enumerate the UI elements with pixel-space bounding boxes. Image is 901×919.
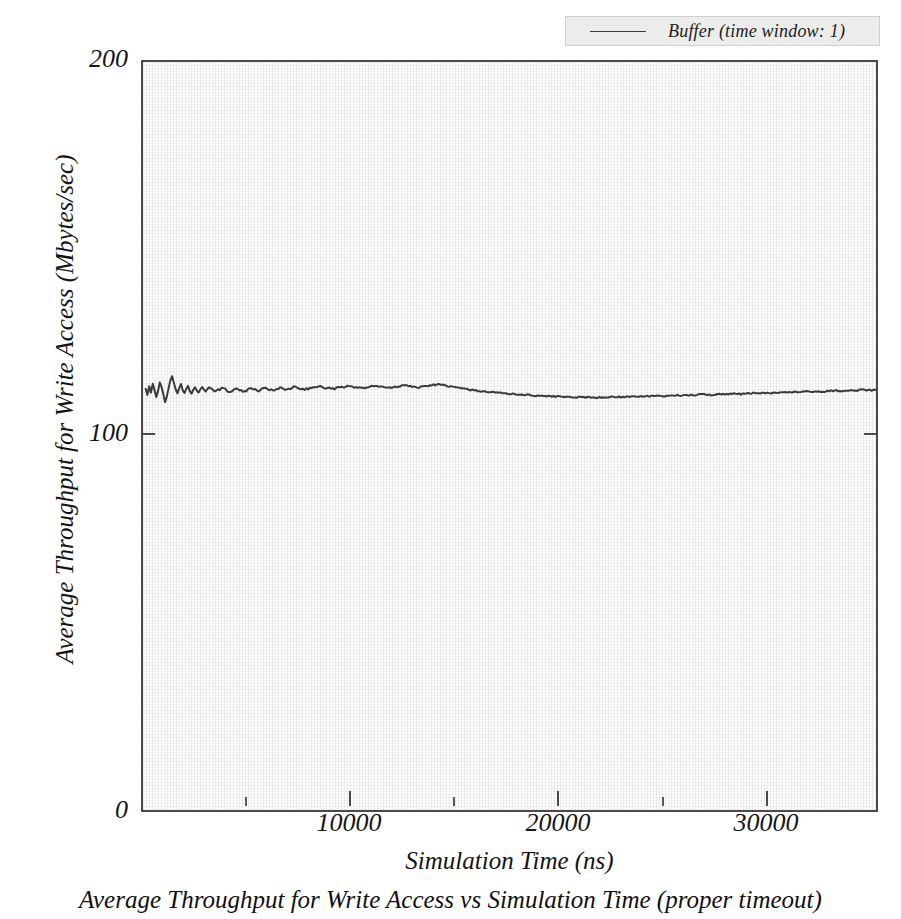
plot-area <box>141 60 878 812</box>
legend-entry-buffer: Buffer (time window: 1) <box>566 17 879 45</box>
x-tick-label-30000: 30000 <box>691 808 841 838</box>
x-tick-major-30000 <box>766 791 768 806</box>
x-tick-minor-5000 <box>245 797 247 806</box>
x-tick-major-20000 <box>557 791 559 806</box>
x-tick-label-20000: 20000 <box>483 808 633 838</box>
figure-container: Buffer (time window: 1) 200 100 0 10000 … <box>0 0 901 919</box>
legend-line-swatch-icon <box>590 31 646 32</box>
x-tick-minor-15000 <box>453 797 455 806</box>
legend-label: Buffer (time window: 1) <box>668 21 845 42</box>
y-tick-label-0: 0 <box>48 795 128 825</box>
y-tick-100-right <box>864 433 878 435</box>
legend: Buffer (time window: 1) <box>565 16 880 46</box>
x-axis-title: Simulation Time (ns) <box>141 847 878 875</box>
y-axis-title: Average Throughput for Write Access (Mby… <box>51 29 79 789</box>
x-tick-major-10000 <box>349 791 351 806</box>
x-tick-minor-25000 <box>662 797 664 806</box>
series-buffer <box>143 62 876 810</box>
x-tick-label-10000: 10000 <box>274 808 424 838</box>
y-tick-100-left <box>141 433 155 435</box>
figure-caption: Average Throughput for Write Access vs S… <box>0 886 901 914</box>
